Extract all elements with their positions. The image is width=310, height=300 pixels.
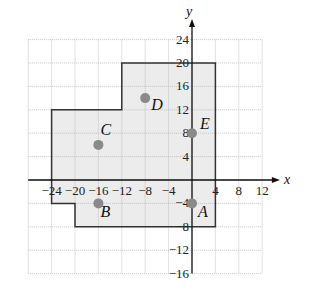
- point-e: [187, 128, 197, 138]
- x-tick-label: −8: [138, 183, 152, 198]
- y-tick-label: 16: [176, 78, 190, 93]
- y-axis-label: y: [184, 4, 193, 19]
- x-tick-label: −4: [162, 183, 176, 198]
- x-tick-label: −16: [88, 183, 109, 198]
- y-tick-label: −12: [169, 242, 189, 257]
- x-axis-arrow-icon: [272, 177, 280, 183]
- coordinate-plot: xy−24−20−16−12−8−448122420161284−4−8−12−…: [0, 0, 310, 300]
- x-tick-label: 8: [236, 183, 243, 198]
- x-tick-label: −24: [41, 183, 62, 198]
- y-tick-label: −16: [169, 266, 190, 281]
- y-tick-label: 24: [176, 32, 190, 47]
- point-d: [140, 93, 150, 103]
- point-label-c: C: [100, 121, 111, 138]
- point-label-b: B: [100, 203, 110, 220]
- y-axis-arrow-icon: [189, 19, 195, 27]
- point-label-a: A: [197, 203, 208, 220]
- x-tick-label: −12: [112, 183, 132, 198]
- x-axis-label: x: [283, 172, 291, 187]
- y-tick-label: 4: [183, 149, 190, 164]
- x-tick-label: −20: [65, 183, 85, 198]
- x-tick-label: 12: [256, 183, 269, 198]
- point-c: [93, 140, 103, 150]
- x-tick-label: 4: [212, 183, 219, 198]
- point-label-e: E: [199, 115, 210, 132]
- point-label-d: D: [150, 96, 163, 113]
- y-tick-label: 20: [176, 55, 189, 70]
- y-tick-label: 12: [176, 102, 189, 117]
- y-tick-label: −8: [175, 219, 189, 234]
- point-a: [187, 198, 197, 208]
